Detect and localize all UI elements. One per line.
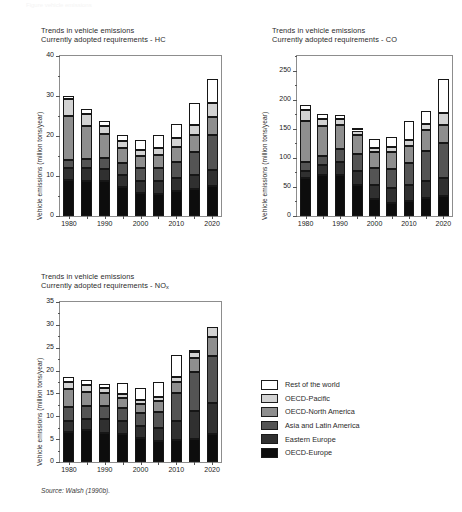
- x-tick: [105, 216, 106, 219]
- bar-segment: [171, 393, 182, 420]
- bar-segment: [135, 181, 146, 193]
- bar-segment: [135, 413, 146, 426]
- y-tick-minor: [295, 201, 298, 202]
- y-tick-minor: [295, 56, 298, 57]
- bar-2020: [438, 56, 449, 216]
- y-tick-major: [56, 462, 60, 463]
- y-tick-major: [56, 136, 60, 137]
- x-tick: [69, 462, 70, 465]
- bar-2010: [404, 56, 415, 216]
- x-tick-label: 2000: [133, 220, 149, 227]
- bar-1985: [317, 56, 328, 216]
- bar-segment: [117, 383, 128, 394]
- bar-1985: [81, 56, 92, 216]
- y-tick-label: 10: [46, 412, 54, 419]
- y-tick-major: [293, 187, 297, 188]
- legend: Rest of the world OECD-Pacific OECD-Nort…: [261, 378, 441, 460]
- bar-segment: [386, 152, 397, 169]
- bar-segment: [135, 168, 146, 181]
- bar-segment: [153, 148, 164, 155]
- bar-segment: [207, 186, 218, 216]
- x-tick-label: 2000: [367, 220, 383, 227]
- y-tick-label: 25: [46, 343, 54, 350]
- y-tick-minor: [58, 336, 61, 337]
- bar-segment: [171, 138, 182, 147]
- bar-segment: [189, 439, 200, 462]
- bar-segment: [135, 438, 146, 462]
- bar-1985: [81, 302, 92, 462]
- y-axis-label-nox: Vehicle emissions (million tons/year): [36, 358, 43, 466]
- bar-segment: [207, 117, 218, 135]
- x-tick: [443, 216, 444, 219]
- bar-segment: [135, 150, 146, 156]
- y-tick-label: 10: [46, 171, 54, 178]
- plot-area-co: 05010015020025019801990200020102020: [296, 55, 453, 217]
- bar-segment: [99, 433, 110, 462]
- legend-label: Asia and Latin America: [285, 421, 360, 430]
- y-tick-label: 200: [279, 95, 291, 102]
- x-tick-label: 1990: [97, 220, 113, 227]
- bar-segment: [189, 189, 200, 216]
- x-tick: [123, 462, 124, 465]
- y-tick-major: [56, 371, 60, 372]
- bar-segment: [369, 185, 380, 199]
- bar-segment: [99, 181, 110, 216]
- bar-segment: [171, 162, 182, 178]
- bar-2005: [153, 302, 164, 462]
- bar-segment: [171, 191, 182, 216]
- y-tick-label: 50: [283, 182, 291, 189]
- bar-1995: [117, 302, 128, 462]
- bar-segment: [207, 79, 218, 103]
- bar-segment: [135, 140, 146, 150]
- bar-segment: [369, 152, 380, 168]
- bar-segment: [438, 125, 449, 144]
- y-tick-major: [56, 348, 60, 349]
- bar-segment: [171, 421, 182, 440]
- bar-segment: [153, 181, 164, 193]
- bar-segment: [81, 114, 92, 125]
- bar-segment: [63, 389, 74, 407]
- bar-segment: [207, 170, 218, 186]
- bar-segment: [81, 392, 92, 406]
- bar-segment: [404, 201, 415, 216]
- bar-segment: [352, 131, 363, 136]
- bar-segment: [153, 428, 164, 441]
- bar-1980: [63, 302, 74, 462]
- legend-label: Eastern Europe: [285, 435, 336, 444]
- bar-segment: [189, 135, 200, 151]
- bar-segment: [171, 440, 182, 462]
- y-tick-minor: [295, 114, 298, 115]
- bar-segment: [81, 181, 92, 216]
- source-note: Source: Walsh (1990b).: [41, 487, 110, 494]
- chart-title-line2: Currently adopted requirements - CO: [272, 35, 397, 44]
- y-tick-major: [293, 71, 297, 72]
- x-tick: [87, 462, 88, 465]
- y-tick-major: [293, 216, 297, 217]
- bar-segment: [189, 372, 200, 411]
- x-tick: [340, 216, 341, 219]
- chart-title-hc: Trends in vehicle emissions Currently ad…: [41, 26, 166, 45]
- x-tick-label: 2010: [168, 466, 184, 473]
- top-caption: Figure vehicle emissions: [26, 2, 92, 8]
- y-tick-major: [56, 325, 60, 326]
- legend-item: Asia and Latin America: [261, 419, 441, 433]
- bar-1995: [117, 56, 128, 216]
- y-tick-label: 30: [46, 320, 54, 327]
- bar-segment: [317, 175, 328, 216]
- bar-1990: [335, 56, 346, 216]
- bar-segment: [135, 388, 146, 400]
- bar-segment: [189, 350, 200, 353]
- bar-segment: [63, 160, 74, 168]
- y-tick-label: 100: [279, 153, 291, 160]
- bar-segment: [135, 400, 146, 404]
- x-tick: [194, 462, 195, 465]
- x-tick-label: 2020: [204, 466, 220, 473]
- bar-segment: [99, 388, 110, 393]
- bar-segment: [117, 135, 128, 141]
- chart-title-co: Trends in vehicle emissions Currently ad…: [272, 26, 397, 45]
- bar-segment: [81, 430, 92, 462]
- legend-item: OECD-North America: [261, 405, 441, 419]
- x-tick: [158, 216, 159, 219]
- bar-segment: [335, 125, 346, 149]
- y-tick-minor: [58, 428, 61, 429]
